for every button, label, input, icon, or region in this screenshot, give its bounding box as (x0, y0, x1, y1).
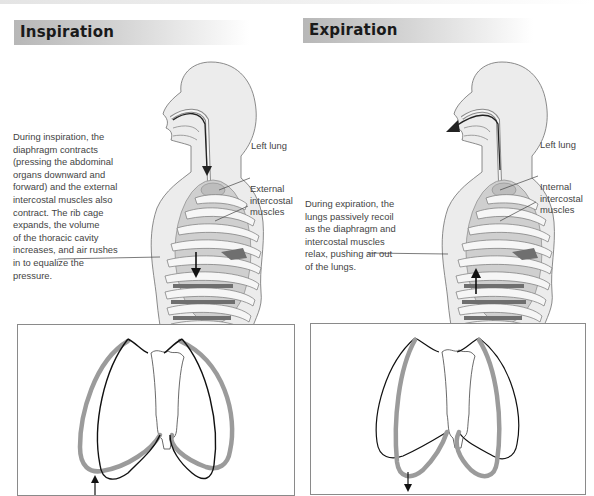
desc-line: (pressing the abdominal (13, 156, 141, 169)
label-line: muscles (250, 206, 293, 218)
desc-line: intercostal muscles (305, 236, 430, 249)
desc-line: relax, pushing air out (305, 248, 430, 261)
desc-line: During expiration, the (305, 198, 430, 211)
desc-line: pressure. (13, 270, 141, 283)
expiration-description: During expiration, the lungs passively r… (305, 198, 430, 274)
expiration-ribcage-diagram (311, 324, 585, 494)
desc-line: in to equalize the (13, 257, 141, 270)
inspiration-ribcage-box (17, 324, 295, 496)
inspiration-description: During inspiration, the diaphragm contra… (13, 131, 141, 282)
desc-line: lungs passively recoil (305, 211, 430, 224)
desc-line: forward) and the external (13, 181, 141, 194)
inspiration-muscles-label: External intercostal muscles (250, 183, 293, 218)
desc-line: organs downward and (13, 169, 141, 182)
label-line: intercostal (250, 195, 293, 207)
expiration-ribcage-box (310, 323, 586, 495)
desc-line: diaphragm contracts (13, 144, 141, 157)
label-line: muscles (540, 204, 583, 216)
label-line: Internal (540, 181, 583, 193)
desc-line: as the diaphragm and (305, 223, 430, 236)
desc-line: contract. The rib cage (13, 207, 141, 220)
desc-line: of the thoracic cavity (13, 232, 141, 245)
expiration-muscles-label: Internal intercostal muscles (540, 181, 583, 216)
desc-line: of the lungs. (305, 261, 430, 274)
air-out-arrow-icon (446, 120, 460, 132)
desc-line: expands, the volume (13, 219, 141, 232)
label-line: intercostal (540, 193, 583, 205)
desc-line: increases, and air rushes (13, 244, 141, 257)
ribcage-down-arrow-icon (404, 484, 412, 492)
desc-line: intercostal muscles also (13, 194, 141, 207)
desc-line: During inspiration, the (13, 131, 141, 144)
expiration-lung-label: Left lung (540, 139, 576, 151)
label-line: External (250, 183, 293, 195)
inspiration-lung-label: Left lung (251, 140, 287, 152)
ribcage-up-arrow-icon (91, 475, 99, 483)
inspiration-ribcage-diagram (18, 325, 294, 495)
